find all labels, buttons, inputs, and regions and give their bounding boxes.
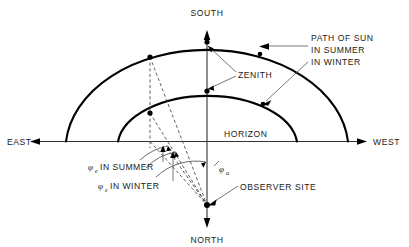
west-arrowhead-icon xyxy=(357,138,367,145)
winter-arc-sample-dot xyxy=(147,110,152,115)
phi-e-winter-text: IN WINTER xyxy=(110,181,159,191)
phi-a-symbol: φ xyxy=(219,164,224,174)
phi-a-arrowhead-icon xyxy=(201,162,206,168)
phi-e-summer-subscript: e xyxy=(95,168,98,174)
label-phi-e-summer: φ e IN SUMMER xyxy=(88,162,154,174)
phi-a-subscript: a xyxy=(226,170,229,176)
phi-a-angle-arc xyxy=(156,161,206,177)
label-west: WEST xyxy=(373,137,400,147)
label-zenith: ZENITH xyxy=(238,70,272,80)
sun-path-diagram: SOUTH NORTH EAST WEST ZENITH HORIZON PAT… xyxy=(0,0,409,247)
summer-zenith-dot xyxy=(204,39,209,44)
label-path-of-sun: PATH OF SUN xyxy=(311,33,374,43)
winter-elevation-dashed-line xyxy=(150,113,207,205)
phi-e-winter-symbol: φ xyxy=(98,181,103,191)
azimuth-dashed-line xyxy=(150,142,207,206)
label-in-summer: IN SUMMER xyxy=(311,45,365,55)
label-horizon: HORIZON xyxy=(224,129,267,139)
north-arrowhead-icon xyxy=(204,218,211,228)
label-observer-site: OBSERVER SITE xyxy=(240,182,316,192)
phi-e-winter-subscript: e xyxy=(105,187,108,193)
diagram-canvas: SOUTH NORTH EAST WEST ZENITH HORIZON PAT… xyxy=(0,0,409,247)
summer-arc-right-dot xyxy=(258,52,263,57)
label-north: NORTH xyxy=(190,235,223,245)
label-east: EAST xyxy=(7,137,32,147)
label-phi-e-winter: φ e IN WINTER xyxy=(98,181,159,193)
label-south: SOUTH xyxy=(191,8,224,18)
phi-e-summer-symbol: φ xyxy=(88,162,93,172)
phi-e-summer-text: IN SUMMER xyxy=(100,162,154,172)
summer-arc-sample-dot xyxy=(147,54,152,59)
south-arrowhead-icon xyxy=(204,30,211,40)
east-west-axis xyxy=(30,138,367,145)
label-phi-a: φ a xyxy=(219,164,229,176)
label-in-winter: IN WINTER xyxy=(311,57,361,67)
summer-path-arrowhead-icon xyxy=(259,43,269,50)
